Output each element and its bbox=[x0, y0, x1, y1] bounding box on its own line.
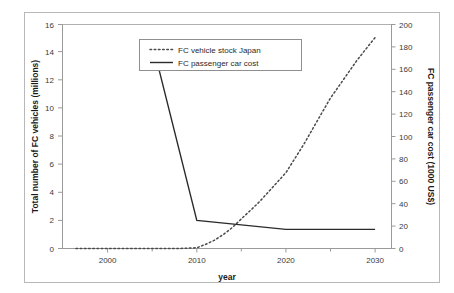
left-tick-label: 6 bbox=[50, 160, 55, 169]
y2-axis-title: FC passenger car cost (1000 US$) bbox=[426, 68, 436, 205]
left-tick-label: 0 bbox=[50, 245, 55, 254]
legend-label-fc-passenger-car-cost: FC passenger car cost bbox=[178, 59, 259, 68]
left-tick-label: 10 bbox=[45, 104, 54, 113]
right-tick-label: 200 bbox=[399, 21, 413, 30]
right-tick-label: 100 bbox=[399, 133, 413, 142]
right-tick-label: 140 bbox=[399, 88, 413, 97]
x-tick-label: 2030 bbox=[366, 256, 384, 265]
right-tick-label: 180 bbox=[399, 43, 413, 52]
left-tick-label: 14 bbox=[45, 48, 54, 57]
right-tick-label: 60 bbox=[399, 177, 408, 186]
x-tick-label: 2010 bbox=[188, 256, 206, 265]
left-tick-label: 8 bbox=[50, 132, 55, 141]
right-tick-label: 40 bbox=[399, 200, 408, 209]
right-axis-ticks bbox=[392, 25, 396, 249]
x-tick-label: 2020 bbox=[277, 256, 295, 265]
left-tick-label: 16 bbox=[45, 21, 54, 30]
left-axis-tick-labels: 0 2 4 6 8 10 12 14 16 bbox=[45, 21, 54, 254]
right-tick-label: 0 bbox=[399, 245, 404, 254]
left-axis-ticks bbox=[58, 25, 62, 249]
legend-label-fc-vehicle-stock-japan: FC vehicle stock Japan bbox=[178, 46, 261, 55]
chart-legend: FC vehicle stock Japan FC passenger car … bbox=[140, 40, 302, 71]
x-tick-label: 2000 bbox=[99, 256, 117, 265]
x-axis-tick-labels: 2000 2010 2020 2030 bbox=[99, 256, 385, 265]
right-tick-label: 80 bbox=[399, 155, 408, 164]
right-tick-label: 20 bbox=[399, 222, 408, 231]
right-axis-tick-labels: 0 20 40 60 80 100 120 140 160 180 200 bbox=[399, 21, 413, 254]
right-tick-label: 160 bbox=[399, 65, 413, 74]
x-axis-title: year bbox=[218, 272, 236, 282]
left-tick-label: 12 bbox=[45, 76, 54, 85]
left-tick-label: 4 bbox=[50, 188, 55, 197]
chart-figure: 0 2 4 6 8 10 12 14 16 0 20 40 bbox=[0, 0, 454, 293]
right-tick-label: 120 bbox=[399, 110, 413, 119]
plot-svg: 0 2 4 6 8 10 12 14 16 0 20 40 bbox=[0, 0, 454, 293]
y-axis-title: Total number of FC vehicles (millions) bbox=[30, 60, 40, 214]
left-tick-label: 2 bbox=[50, 216, 55, 225]
